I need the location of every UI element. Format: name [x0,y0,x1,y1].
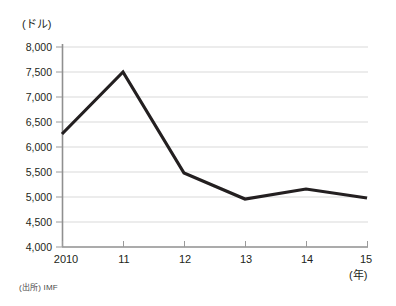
y-tick-label: 6,500 [6,116,52,128]
x-tick-label: 12 [179,253,191,265]
x-tick-label: 2010 [54,253,78,265]
y-axis-ticks [56,47,62,247]
source-note: (出所) IMF [19,281,58,292]
y-tick-label: 4,500 [6,216,52,228]
x-tick-label: 11 [118,253,129,265]
y-tick-label: 8,000 [6,41,52,53]
y-tick-label: 5,000 [6,191,52,203]
line-chart: (ドル) [0,0,396,306]
y-tick-label: 7,000 [6,91,52,103]
x-tick-label: 14 [301,253,313,265]
x-tick-label: 15 [360,253,372,265]
data-series-line [62,72,367,199]
y-tick-label: 6,000 [6,141,52,153]
x-axis-ticks [63,241,368,247]
gridlines [62,47,368,222]
x-tick-label: 13 [240,253,252,265]
y-tick-label: 4,000 [6,241,52,253]
y-tick-label: 7,500 [6,66,52,78]
x-axis-unit-label: (年) [349,266,367,282]
y-tick-label: 5,500 [6,166,52,178]
